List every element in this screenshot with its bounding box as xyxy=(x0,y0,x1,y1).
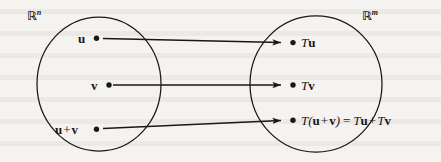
vector-u-text: u xyxy=(78,31,85,46)
plus-operator: + xyxy=(368,113,377,128)
transform-T-text: T xyxy=(353,113,360,128)
domain-set-label: ℝn xyxy=(27,9,41,22)
dot-Tv xyxy=(290,82,295,87)
point-label-Tv: Tv xyxy=(301,79,315,92)
point-label-v: v xyxy=(91,79,98,92)
point-label-Tu: Tu xyxy=(301,36,315,49)
codomain-circle xyxy=(250,16,382,152)
vector-u-text: u xyxy=(313,113,320,128)
codomain-set-label: ℝm xyxy=(362,9,378,22)
arrow-uv-to-Tuv xyxy=(103,121,281,129)
vector-u-text: u xyxy=(361,113,368,128)
point-label-u-plus-v: u+v xyxy=(55,123,78,136)
plus-operator: + xyxy=(62,122,71,137)
dot-u-plus-v xyxy=(94,127,99,132)
dot-T-of-u-plus-v xyxy=(290,118,295,123)
blackboard-R-icon: ℝ xyxy=(362,9,372,23)
dot-Tu xyxy=(290,40,295,45)
plus-operator: + xyxy=(320,113,329,128)
domain-set-superscript: n xyxy=(37,8,42,17)
blackboard-R-icon: ℝ xyxy=(27,9,37,23)
vector-v-text: v xyxy=(384,113,391,128)
linear-transformation-diagram: ℝn ℝm u v u+v Tu Tv T(u+v)=Tu+Tv xyxy=(0,0,441,162)
vector-v-text: v xyxy=(91,78,98,93)
equals-operator: = xyxy=(340,113,353,128)
dot-u xyxy=(94,36,99,41)
diagram-canvas xyxy=(0,0,441,162)
vector-u-text: u xyxy=(308,35,315,50)
arrow-u-to-Tu xyxy=(103,39,281,43)
dot-v xyxy=(106,82,111,87)
point-label-T-of-u-plus-v-equation: T(u+v)=Tu+Tv xyxy=(301,114,391,127)
codomain-set-superscript: m xyxy=(372,8,378,17)
vector-v-text: v xyxy=(72,122,79,137)
vector-v-text: v xyxy=(308,78,315,93)
point-label-u: u xyxy=(78,32,85,45)
